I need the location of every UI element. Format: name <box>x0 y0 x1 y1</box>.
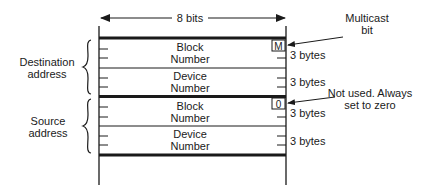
zero-bit-box: 0 <box>272 98 285 110</box>
svg-text:Multicast: Multicast <box>345 12 388 24</box>
size-label: 3 bytes <box>290 107 326 119</box>
svg-text:Device: Device <box>173 128 207 140</box>
field-device-number-src: Device Number <box>170 128 209 152</box>
destination-brace-icon <box>83 40 91 94</box>
size-label: 3 bytes <box>290 49 326 61</box>
svg-text:Number: Number <box>170 112 209 124</box>
address-format-diagram: 8 bits Block Number Device Number Block <box>0 0 439 195</box>
source-brace-icon <box>83 99 91 153</box>
source-address-label: Source address <box>28 115 68 139</box>
svg-text:M: M <box>274 41 282 52</box>
size-label: 3 bytes <box>290 135 326 147</box>
svg-text:Block: Block <box>177 100 204 112</box>
svg-text:Source: Source <box>31 115 66 127</box>
width-dimension-arrow: 8 bits <box>101 12 285 24</box>
svg-text:Number: Number <box>170 82 209 94</box>
multicast-annotation: Multicast bit <box>288 12 389 45</box>
svg-text:Destination: Destination <box>19 56 74 68</box>
svg-text:Number: Number <box>170 53 209 65</box>
field-block-number-dest: Block Number <box>170 41 209 65</box>
svg-text:address: address <box>27 68 67 80</box>
svg-text:Not used. Always: Not used. Always <box>328 87 413 99</box>
svg-text:0: 0 <box>276 99 282 110</box>
multicast-bit-box: M <box>272 40 285 52</box>
destination-address-label: Destination address <box>19 56 74 80</box>
svg-text:Device: Device <box>173 70 207 82</box>
width-label: 8 bits <box>177 12 204 24</box>
field-device-number-dest: Device Number <box>170 70 209 94</box>
svg-text:set to zero: set to zero <box>344 99 395 111</box>
svg-text:Number: Number <box>170 140 209 152</box>
field-block-number-src: Block Number <box>170 100 209 124</box>
svg-text:bit: bit <box>361 24 373 36</box>
svg-text:address: address <box>28 127 68 139</box>
svg-text:Block: Block <box>177 41 204 53</box>
size-label: 3 bytes <box>290 76 326 88</box>
